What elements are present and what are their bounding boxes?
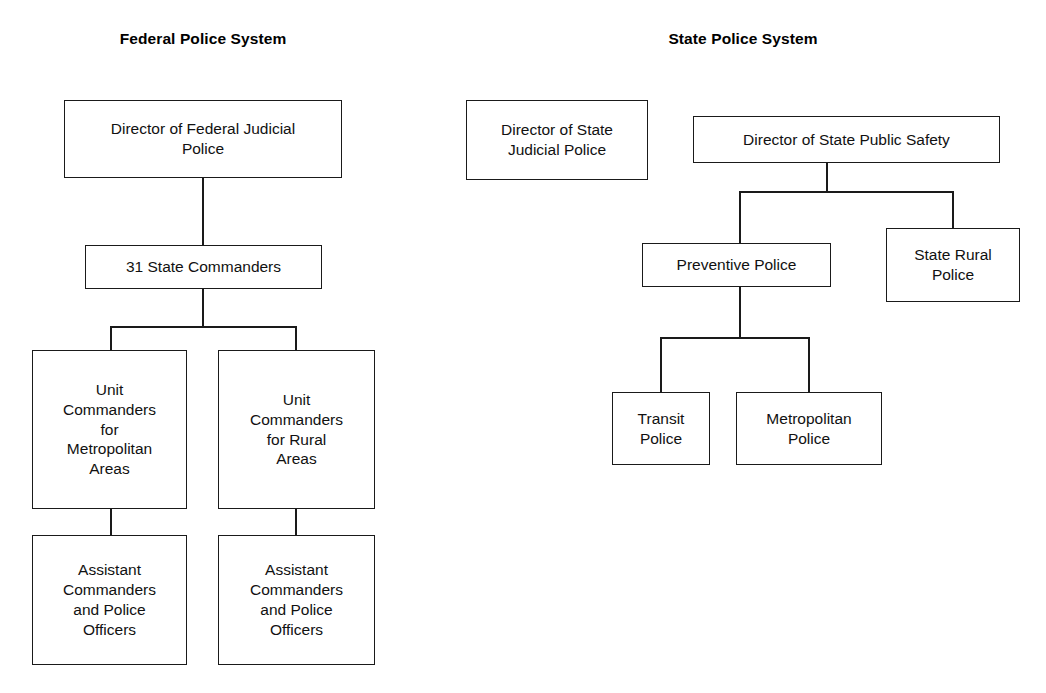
state-system-title: State Police System bbox=[604, 30, 882, 48]
node-label: Preventive Police bbox=[677, 255, 797, 275]
node-director-state-judicial-police: Director of State Judicial Police bbox=[466, 100, 648, 180]
node-preventive-police: Preventive Police bbox=[642, 243, 831, 287]
org-chart-diagram: Federal Police System State Police Syste… bbox=[0, 0, 1046, 693]
connector-commanders-to-unit-metro bbox=[110, 326, 112, 350]
connector-preventive-to-transit bbox=[660, 337, 662, 392]
connector-unit-rural-to-assistant bbox=[295, 509, 297, 535]
node-label: Director of State Judicial Police bbox=[501, 120, 613, 160]
connector-commanders-bus bbox=[110, 326, 297, 328]
node-label: Assistant Commanders and Police Officers bbox=[250, 560, 343, 639]
node-state-rural-police: State Rural Police bbox=[886, 228, 1020, 302]
node-unit-commanders-rural: Unit Commanders for Rural Areas bbox=[218, 350, 375, 509]
connector-public-safety-stem bbox=[826, 163, 828, 193]
connector-preventive-to-metropolitan bbox=[808, 337, 810, 392]
connector-unit-metro-to-assistant bbox=[110, 509, 112, 535]
node-label: Metropolitan Police bbox=[766, 409, 851, 449]
node-assistant-commanders-metropolitan: Assistant Commanders and Police Officers bbox=[32, 535, 187, 665]
connector-public-safety-bus bbox=[739, 191, 954, 193]
node-director-state-public-safety: Director of State Public Safety bbox=[693, 116, 1000, 163]
node-director-federal-judicial-police: Director of Federal Judicial Police bbox=[64, 100, 342, 178]
node-unit-commanders-metropolitan: Unit Commanders for Metropolitan Areas bbox=[32, 350, 187, 509]
connector-commanders-stem bbox=[202, 289, 204, 328]
node-transit-police: Transit Police bbox=[612, 392, 710, 465]
node-label: Director of State Public Safety bbox=[743, 130, 950, 150]
connector-public-safety-to-preventive bbox=[739, 191, 741, 243]
node-label: Transit Police bbox=[638, 409, 685, 449]
connector-commanders-to-unit-rural bbox=[295, 326, 297, 350]
connector-public-safety-to-state-rural bbox=[952, 191, 954, 228]
node-label: Director of Federal Judicial Police bbox=[111, 119, 295, 159]
node-31-state-commanders: 31 State Commanders bbox=[85, 245, 322, 289]
connector-preventive-bus bbox=[660, 337, 809, 339]
connector-director-to-commanders bbox=[202, 178, 204, 245]
federal-system-title: Federal Police System bbox=[64, 30, 342, 48]
node-metropolitan-police: Metropolitan Police bbox=[736, 392, 882, 465]
connector-preventive-stem bbox=[739, 287, 741, 339]
node-label: Assistant Commanders and Police Officers bbox=[63, 560, 156, 639]
node-label: 31 State Commanders bbox=[126, 257, 281, 277]
node-label: Unit Commanders for Rural Areas bbox=[250, 390, 343, 469]
node-assistant-commanders-rural: Assistant Commanders and Police Officers bbox=[218, 535, 375, 665]
node-label: State Rural Police bbox=[914, 245, 992, 285]
node-label: Unit Commanders for Metropolitan Areas bbox=[63, 380, 156, 479]
